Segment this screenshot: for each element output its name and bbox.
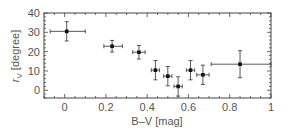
point-marker [201, 73, 205, 77]
data-point [211, 51, 271, 78]
data-point [104, 40, 123, 52]
point-marker [65, 30, 69, 34]
y-axis-title: rV [degree] [9, 30, 24, 82]
x-tick-label: 1 [268, 101, 274, 113]
y-axis-unit: [degree] [9, 30, 21, 73]
data-point [50, 22, 85, 41]
point-marker [176, 85, 180, 89]
point-marker [238, 62, 242, 66]
x-tick-label: 0.4 [140, 101, 155, 113]
data-point [174, 77, 182, 96]
plot-border [44, 13, 271, 98]
x-tick-label: 0.8 [222, 101, 237, 113]
point-marker [166, 74, 170, 78]
y-tick-label: 40 [28, 7, 40, 19]
data-points [50, 22, 271, 96]
data-point [197, 65, 209, 84]
y-tick-label: 30 [28, 26, 40, 38]
point-marker [110, 44, 114, 48]
y-tick-label: 20 [28, 46, 40, 58]
x-tick-label: 0 [62, 101, 68, 113]
y-tick-label: 10 [28, 65, 40, 77]
y-tick-label: 0 [34, 84, 40, 96]
point-marker [189, 68, 193, 72]
scatter-chart: 00.20.40.60.81 010203040 B–V [mag] rV [d… [0, 0, 290, 136]
point-marker [137, 50, 141, 54]
x-axis-title: B–V [mag] [131, 115, 182, 127]
x-tick-label: 0.6 [181, 101, 196, 113]
data-point [164, 67, 172, 86]
plot-frame [44, 13, 271, 98]
data-point [133, 45, 145, 59]
data-point [186, 61, 194, 80]
svg-text:rV [degree]: rV [degree] [9, 30, 24, 82]
y-axis-ticks: 010203040 [28, 7, 271, 98]
point-marker [154, 68, 158, 72]
data-point [151, 61, 159, 80]
x-tick-label: 0.2 [98, 101, 113, 113]
